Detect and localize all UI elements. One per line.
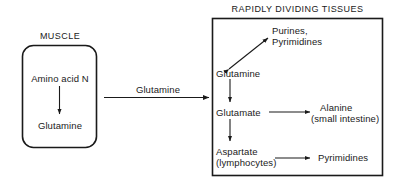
tissues-panel-title: RAPIDLY DIVIDING TISSUES <box>210 4 385 15</box>
transport-arrow-label: Glutamine <box>113 84 203 95</box>
node-pyrimidines-upper: Pyrimidines <box>272 36 322 47</box>
node-alanine-tissue-note: (small intestine) <box>311 113 379 124</box>
node-aspartate: Aspartate <box>216 146 258 157</box>
node-purines: Purines, <box>272 25 308 36</box>
muscle-panel-title: MUSCLE <box>22 31 98 42</box>
muscle-box <box>23 46 97 148</box>
node-amino-acid-n: Amino acid N <box>14 73 106 84</box>
diagram-canvas: MUSCLE Amino acid N Glutamine Glutamine … <box>0 0 395 188</box>
node-aspartate-cell-note: (lymphocytes) <box>216 157 276 168</box>
node-muscle-glutamine: Glutamine <box>14 120 106 131</box>
node-tissue-glutamine: Glutamine <box>216 68 260 79</box>
node-alanine: Alanine <box>320 102 352 113</box>
node-pyrimidines-lower: Pyrimidines <box>318 152 368 163</box>
node-glutamate: Glutamate <box>216 107 261 118</box>
glutamine-to-purines-arrow <box>229 38 268 69</box>
